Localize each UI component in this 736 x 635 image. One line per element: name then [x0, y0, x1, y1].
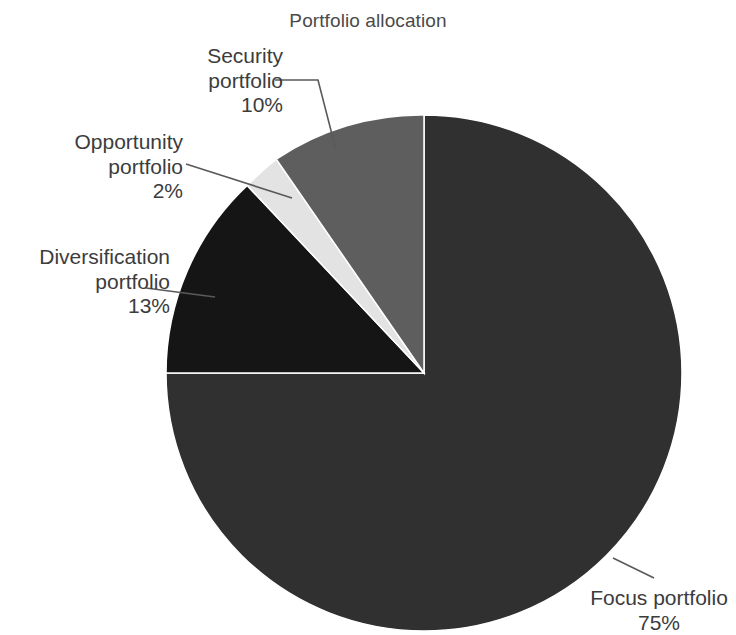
slice-label-opportunity-line1: Opportunity — [45, 130, 183, 155]
leader-line-focus — [613, 558, 654, 578]
slice-label-focus-line1: Focus portfolio — [585, 586, 733, 611]
slice-label-diversification-line1: Diversification — [2, 245, 170, 270]
slice-label-opportunity-line2: portfolio — [45, 155, 183, 180]
slice-label-diversification-line2: portfolio — [2, 270, 170, 295]
slice-label-diversification-value: 13% — [2, 294, 170, 319]
pie-chart-figure: Portfolio allocation Security portfolio … — [0, 0, 736, 635]
slice-label-opportunity-value: 2% — [45, 179, 183, 204]
slice-label-security-value: 10% — [153, 93, 283, 118]
slice-label-diversification-portfolio: Diversification portfolio 13% — [2, 245, 170, 319]
slice-label-security-line2: portfolio — [153, 69, 283, 94]
slice-label-focus-value: 75% — [585, 611, 733, 635]
slice-label-security-portfolio: Security portfolio 10% — [153, 44, 283, 118]
slice-label-focus-portfolio: Focus portfolio 75% — [585, 586, 733, 635]
slice-label-security-line1: Security — [153, 44, 283, 69]
slice-label-opportunity-portfolio: Opportunity portfolio 2% — [45, 130, 183, 204]
